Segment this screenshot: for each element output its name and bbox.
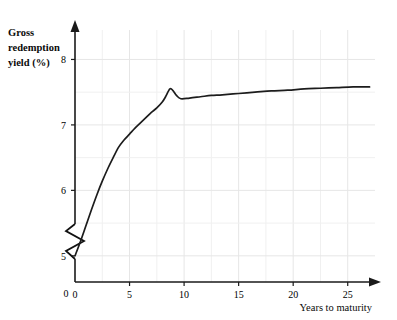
x-axis-tick-label: 20 — [288, 289, 298, 300]
x-axis-tick-label: 10 — [179, 289, 189, 300]
y-axis-tick-label: 6 — [61, 185, 66, 196]
yield-curve-chart: 5678 0510152025 0 Gross redemption yield… — [0, 0, 397, 320]
y-axis-origin-label: 0 — [64, 288, 69, 299]
y-axis-tick-label: 5 — [61, 251, 66, 262]
y-axis-tick-label: 8 — [61, 54, 66, 65]
y-axis-label-line-2: redemption — [8, 42, 60, 53]
x-axis-tick-label: 15 — [234, 289, 244, 300]
x-axis-tick-label: 5 — [127, 289, 132, 300]
chart-canvas: 5678 0510152025 0 Gross redemption yield… — [0, 0, 397, 320]
x-axis-tick-label: 25 — [343, 289, 353, 300]
x-axis-tick-label: 0 — [73, 289, 78, 300]
y-axis-label-line-3: yield (%) — [8, 57, 50, 69]
y-axis-tick-label: 7 — [61, 120, 66, 131]
x-axis-label: Years to maturity — [300, 302, 373, 313]
y-axis-label-line-1: Gross — [8, 27, 34, 38]
